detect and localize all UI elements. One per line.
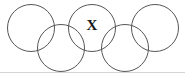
figure-background <box>0 0 185 75</box>
rings-svg-canvas: X <box>0 0 185 75</box>
circle-label-x: X <box>87 17 98 33</box>
overlapping-circles-figure: X <box>0 0 185 75</box>
